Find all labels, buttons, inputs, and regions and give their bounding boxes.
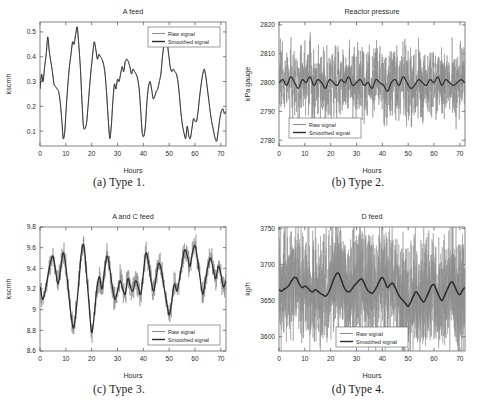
y-axis-label: kPa gauge [243,67,252,101]
x-tick-label: 20 [88,150,96,157]
x-tick-label: 60 [430,355,438,362]
legend: Raw signalSmoothed signal [148,325,220,345]
x-tick-label: 10 [62,150,70,157]
y-tick-label: 2820 [260,21,275,28]
x-tick-label: 40 [379,355,387,362]
y-tick-label: 2800 [260,79,275,86]
chart-title: A feed [123,7,143,16]
x-tick-label: 20 [327,150,335,157]
chart-title: Reactor pressure [344,7,399,16]
x-axis-label: Hours [362,166,382,175]
legend-label-raw: Raw signal [356,331,383,337]
x-tick-label: 10 [301,355,309,362]
legend-label-raw: Raw signal [168,31,195,37]
chart-reactor-pressure: Reactor pressure010203040506070278027902… [239,0,477,180]
y-tick-label: 9.8 [27,223,36,230]
caption-a: (a) Type 1. [0,176,238,188]
y-tick-label: 9.4 [27,265,36,272]
y-tick-label: 9.6 [27,244,36,251]
x-axis-label: Hours [123,371,143,380]
x-tick-label: 70 [456,355,464,362]
legend: Raw signalSmoothed signal [336,327,408,347]
y-tick-label: 9.2 [27,285,36,292]
x-axis-label: Hours [123,166,143,175]
legend-label-raw: Raw signal [309,122,336,128]
chart-d-feed: D feed0102030405060703600365037003750Hou… [239,205,477,385]
x-axis-label: Hours [362,371,382,380]
legend-label-smoothed: Smoothed signal [309,130,350,136]
x-tick-label: 10 [301,150,309,157]
x-tick-label: 30 [114,355,122,362]
chart-title: D feed [361,212,382,221]
y-tick-label: 0.4 [27,53,36,60]
y-tick-label: 2810 [260,50,275,57]
y-axis-label: kg/h [243,282,252,296]
y-tick-label: 0.1 [27,128,36,135]
y-tick-label: 0.5 [27,28,36,35]
y-tick-label: 3600 [260,333,275,340]
chart-a-feed: A feed0102030405060700.10.20.30.40.5Hour… [0,0,238,180]
x-tick-label: 30 [353,355,361,362]
x-tick-label: 0 [38,150,42,157]
x-tick-label: 40 [140,355,148,362]
caption-b: (b) Type 2. [239,176,477,188]
legend-label-raw: Raw signal [168,329,195,335]
caption-c: (c) Type 3. [0,383,238,395]
panel-type-1: A feed0102030405060700.10.20.30.40.5Hour… [0,0,238,209]
y-tick-label: 0.2 [27,103,36,110]
y-tick-label: 3700 [260,261,275,268]
x-tick-label: 60 [191,150,199,157]
legend-label-smoothed: Smoothed signal [168,337,209,343]
y-tick-label: 9 [32,306,36,313]
x-tick-label: 70 [217,150,225,157]
x-tick-label: 50 [165,150,173,157]
figure-panel-grid: A feed0102030405060700.10.20.30.40.5Hour… [0,0,477,419]
y-tick-label: 8.8 [27,327,36,334]
x-tick-label: 60 [430,150,438,157]
caption-d: (d) Type 4. [239,383,477,395]
x-tick-label: 0 [277,355,281,362]
x-tick-label: 20 [327,355,335,362]
y-tick-label: 2780 [260,137,275,144]
x-tick-label: 50 [404,355,412,362]
y-tick-label: 8.6 [27,347,36,354]
y-tick-label: 0.3 [27,78,36,85]
y-axis-label: kscmh [4,279,13,300]
chart-title: A and C feed [112,212,154,221]
y-tick-label: 3650 [260,297,275,304]
x-tick-label: 40 [379,150,387,157]
x-tick-label: 30 [114,150,122,157]
x-tick-label: 0 [38,355,42,362]
panel-type-2: Reactor pressure010203040506070278027902… [239,0,477,209]
y-axis-label: kscmh [4,74,13,95]
y-tick-label: 3750 [260,225,275,232]
chart-a-and-c-feed: A and C feed0102030405060708.68.899.29.4… [0,205,238,385]
panel-type-3: A and C feed0102030405060708.68.899.29.4… [0,205,238,414]
x-tick-label: 60 [191,355,199,362]
panel-type-4: D feed0102030405060703600365037003750Hou… [239,205,477,414]
x-tick-label: 40 [140,150,148,157]
x-tick-label: 20 [88,355,96,362]
x-tick-label: 10 [62,355,70,362]
x-tick-label: 70 [217,355,225,362]
x-tick-label: 50 [165,355,173,362]
x-tick-label: 0 [277,150,281,157]
x-tick-label: 70 [456,150,464,157]
x-tick-label: 30 [353,150,361,157]
legend: Raw signalSmoothed signal [148,27,220,47]
legend: Raw signalSmoothed signal [289,118,361,138]
legend-label-smoothed: Smoothed signal [356,339,397,345]
y-tick-label: 2790 [260,108,275,115]
x-tick-label: 50 [404,150,412,157]
legend-label-smoothed: Smoothed signal [168,39,209,45]
